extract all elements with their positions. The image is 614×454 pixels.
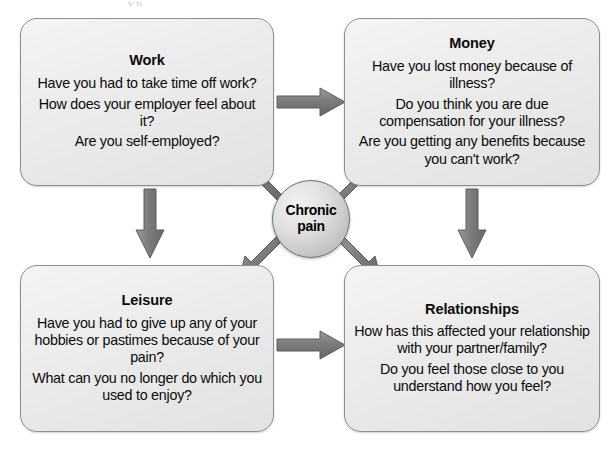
box-title-leisure: Leisure: [122, 292, 173, 309]
box-question: Do you feel those close to you understan…: [354, 361, 590, 395]
box-question: Have you had to take time off work?: [37, 75, 256, 92]
topic-box-relationships[interactable]: Relationships How has this affected your…: [344, 265, 600, 432]
box-question: Have you lost money because of illness?: [354, 58, 590, 92]
box-question: Do you think you are due compensation fo…: [354, 96, 590, 130]
center-node-chronic-pain[interactable]: Chronic pain: [272, 180, 350, 258]
center-label-line2: pain: [297, 219, 325, 235]
box-title-work: Work: [129, 52, 165, 69]
arrow-money-to-relationships: [458, 189, 486, 258]
box-title-money: Money: [449, 35, 494, 52]
box-question: Have you had to give up any of your hobb…: [30, 315, 264, 366]
box-question: How does your employer feel about it?: [30, 96, 264, 130]
center-label-line1: Chronic: [286, 203, 337, 219]
box-question: How has this affected your relationship …: [354, 323, 590, 357]
cropped-caption-remnant: y p: [128, 0, 142, 6]
box-question: Are you self-employed?: [75, 133, 220, 150]
arrow-leisure-to-relationships: [277, 331, 345, 359]
box-question: Are you getting any benefits because you…: [354, 133, 590, 167]
topic-box-money[interactable]: Money Have you lost money because of ill…: [344, 18, 600, 186]
box-title-relationships: Relationships: [425, 301, 519, 318]
arrow-work-to-money: [277, 88, 345, 116]
diagram-canvas: y p: [0, 0, 614, 454]
topic-box-leisure[interactable]: Leisure Have you had to give up any of y…: [20, 265, 274, 432]
box-question: What can you no longer do which you used…: [30, 370, 264, 404]
arrow-work-to-leisure: [136, 189, 164, 258]
topic-box-work[interactable]: Work Have you had to take time off work?…: [20, 18, 274, 186]
